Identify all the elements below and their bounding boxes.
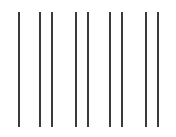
line-pattern bbox=[0, 0, 176, 137]
vertical-line bbox=[39, 12, 41, 127]
vertical-line bbox=[18, 12, 20, 127]
vertical-line bbox=[157, 12, 159, 127]
vertical-line bbox=[109, 12, 111, 127]
vertical-line bbox=[145, 12, 147, 127]
vertical-line bbox=[87, 12, 89, 127]
vertical-line bbox=[51, 12, 53, 127]
vertical-line bbox=[121, 12, 123, 127]
vertical-line bbox=[75, 12, 77, 127]
